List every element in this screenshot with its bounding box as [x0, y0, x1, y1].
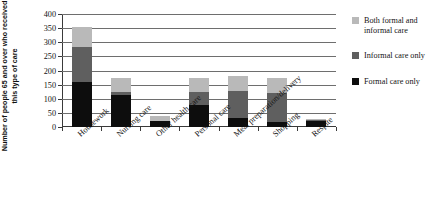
gridline [62, 56, 336, 57]
legend-item-label: Formal care only [364, 77, 420, 87]
y-axis-tick [58, 14, 62, 15]
x-axis-tick [297, 127, 298, 131]
bar-segment [228, 91, 248, 118]
gridline [62, 28, 336, 29]
legend-item: Formal care only [352, 77, 440, 87]
gridline [62, 71, 336, 72]
plot-area: 050100150200250300350400 HouseworkNursin… [62, 14, 336, 127]
x-axis-tick [62, 127, 63, 131]
y-axis-tick-label: 300 [44, 38, 56, 47]
x-axis-tick [336, 127, 337, 131]
legend-item: Both formal and informal care [352, 16, 440, 35]
legend-swatch-icon [352, 78, 359, 85]
x-axis-tick [179, 127, 180, 131]
y-axis-tick [58, 56, 62, 57]
y-axis-tick [58, 42, 62, 43]
y-axis-tick-label: 400 [44, 10, 56, 19]
gridline [62, 42, 336, 43]
legend-swatch-icon [352, 17, 359, 24]
legend: Both formal and informal careInformal ca… [352, 16, 440, 102]
y-axis-tick [58, 113, 62, 114]
bar [72, 27, 92, 127]
y-axis-tick-label: 0 [52, 123, 56, 132]
chart-figure: Number of people 65 and over who receive… [0, 0, 442, 211]
y-axis-tick-label: 150 [44, 80, 56, 89]
y-axis-title-text: Number of people 65 and over who receive… [0, 0, 19, 152]
bar-segment [228, 76, 248, 91]
bar-segment [111, 78, 131, 91]
legend-swatch-icon [352, 52, 359, 59]
y-axis-title: Number of people 65 and over who receive… [0, 0, 26, 160]
y-axis-tick [58, 71, 62, 72]
legend-item-label: Informal care only [364, 51, 425, 61]
bar-segment [72, 27, 92, 47]
x-axis-tick [219, 127, 220, 131]
x-axis-tick [101, 127, 102, 131]
y-axis-tick-label: 200 [44, 66, 56, 75]
x-axis-tick [258, 127, 259, 131]
y-axis-tick [58, 85, 62, 86]
y-axis-tick-label: 250 [44, 52, 56, 61]
y-axis-tick [58, 99, 62, 100]
y-axis-tick [58, 28, 62, 29]
legend-item-label: Both formal and informal care [364, 16, 440, 35]
bar-segment [72, 47, 92, 82]
bar-segment [189, 78, 209, 92]
x-axis-tick [140, 127, 141, 131]
gridline [62, 14, 336, 15]
legend-item: Informal care only [352, 51, 440, 61]
y-axis-tick-label: 350 [44, 24, 56, 33]
y-axis-tick-label: 100 [44, 94, 56, 103]
y-axis-tick-label: 50 [48, 108, 56, 117]
